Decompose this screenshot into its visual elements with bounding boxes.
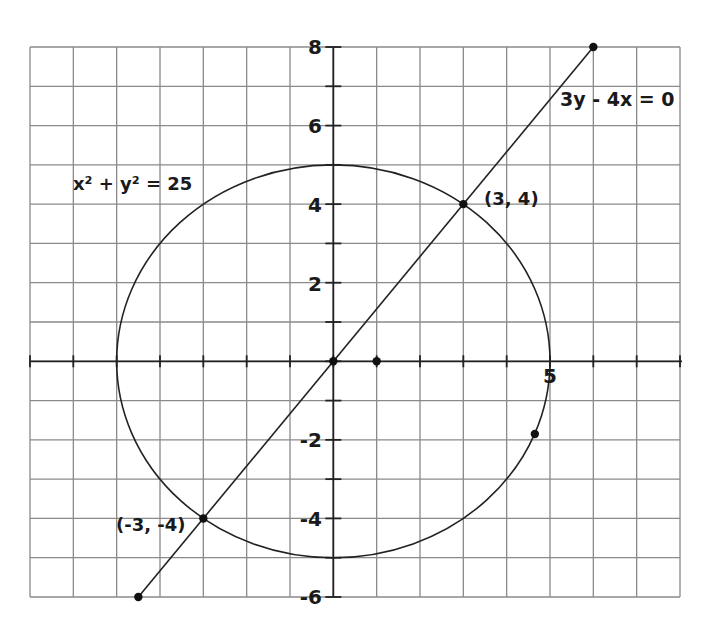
data-point bbox=[372, 357, 380, 365]
chart-svg: 8 6 4 2 -2 -4 -6 5 x² + y² = 25 3y - 4x … bbox=[0, 0, 705, 635]
data-point bbox=[134, 593, 142, 601]
y-tick-label-6: 6 bbox=[308, 114, 322, 138]
point-label-3-4: (3, 4) bbox=[484, 188, 539, 209]
y-tick-label-neg6: -6 bbox=[300, 585, 322, 609]
y-tick-label-4: 4 bbox=[308, 193, 322, 217]
line-equation-label: 3y - 4x = 0 bbox=[560, 88, 675, 110]
data-point bbox=[459, 200, 467, 208]
data-point bbox=[329, 357, 337, 365]
y-tick-label-neg2: -2 bbox=[300, 428, 322, 452]
data-point bbox=[531, 430, 539, 438]
coordinate-plane-chart: 8 6 4 2 -2 -4 -6 5 x² + y² = 25 3y - 4x … bbox=[0, 0, 705, 635]
data-point bbox=[589, 43, 597, 51]
x-tick-label-5: 5 bbox=[543, 364, 557, 388]
point-label-neg3-neg4: (-3, -4) bbox=[116, 514, 186, 535]
circle-equation-label: x² + y² = 25 bbox=[73, 173, 192, 194]
y-tick-label-neg4: -4 bbox=[300, 507, 322, 531]
data-point bbox=[199, 514, 207, 522]
y-tick-label-8: 8 bbox=[308, 35, 322, 59]
y-tick-label-2: 2 bbox=[308, 272, 322, 296]
